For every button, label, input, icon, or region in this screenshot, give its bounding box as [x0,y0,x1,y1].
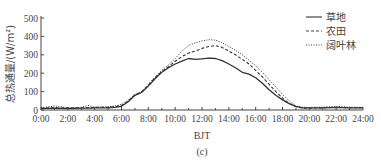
y-tick-label: 100 [24,87,39,97]
legend: 草地 农田 阔叶林 [306,11,356,51]
series-broadleaf-forest [41,40,363,108]
x-tick-label: 12:00 [191,114,213,124]
x-tick-label: 2:00 [59,114,76,124]
legend-label-grassland: 草地 [326,11,346,23]
x-tick-label: 0:00 [33,114,50,124]
x-tick-label: 18:00 [272,114,294,124]
y-tick-label: 300 [24,50,39,60]
panel-label: (c) [196,146,207,158]
series-grassland [41,58,363,108]
x-tick-label: 4:00 [86,114,103,124]
legend-label-farmland: 农田 [326,25,346,37]
x-tick-label: 24:00 [352,114,374,124]
y-tick-label: 200 [24,69,39,79]
plot-area [41,40,363,109]
x-tick-label: 20:00 [299,114,321,124]
x-tick-label: 14:00 [218,114,240,124]
y-axis-title: 总热通量/(W/m²) [4,25,16,103]
x-tick-label: 22:00 [325,114,347,124]
x-axis-title: BJT [194,130,211,141]
x-tick-label: 10:00 [164,114,186,124]
legend-label-broadleaf-forest: 阔叶林 [326,39,356,51]
x-tick-label: 16:00 [245,114,267,124]
x-tick-label: 6:00 [113,114,130,124]
series-farmland [41,46,363,109]
y-tick-label: 400 [24,32,39,42]
y-tick-label: 500 [24,14,39,24]
heat-flux-line-chart: 01002003004005000:002:004:006:008:0010:0… [0,0,381,162]
x-tick-label: 8:00 [140,114,157,124]
